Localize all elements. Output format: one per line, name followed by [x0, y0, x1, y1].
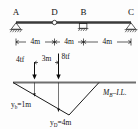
- influence-line-title: MB–I.L.: [102, 88, 127, 98]
- span-label-BC: 4m: [102, 37, 112, 46]
- influence-line-group: yb=1m yD=4m MB–I.L.: [11, 83, 136, 128]
- span-label-AD: 4m: [30, 37, 40, 46]
- ordinate-label-yd: yD=4m: [50, 118, 71, 128]
- ordinate-value-yd: =4m: [58, 118, 72, 127]
- support-C-pin: [125, 23, 138, 32]
- ordinate-value-yb: =1m: [17, 100, 31, 109]
- node-label-D: D: [51, 7, 58, 17]
- loads-group: 4tf 8tf 3m: [16, 52, 70, 80]
- load-arrow-4tf: [32, 62, 36, 80]
- load-label-8tf: 8tf: [62, 52, 71, 61]
- influence-line-shape: [13, 83, 99, 116]
- il-title-tail: –I.L.: [111, 88, 126, 97]
- support-A-pin: [10, 23, 23, 32]
- node-label-C: C: [128, 7, 134, 17]
- support-B-roller: [78, 23, 89, 31]
- figure-canvas: A D B C 4m 4m: [0, 0, 138, 129]
- beam-group: A D B C: [10, 7, 138, 32]
- span-label-DB: 4m: [64, 37, 74, 46]
- dimension-line-group: 4m 4m 4m: [16, 37, 131, 47]
- ordinate-label-yb: yb=1m: [11, 100, 31, 110]
- node-label-A: A: [13, 7, 20, 17]
- hinge-D: [52, 20, 56, 24]
- load-spacing-dimension: 3m: [35, 54, 59, 65]
- ordinate-marker-yd: [57, 83, 60, 113]
- structural-diagram-figure: A D B C 4m 4m: [0, 0, 138, 129]
- load-label-4tf: 4tf: [16, 55, 25, 64]
- node-label-B: B: [80, 7, 86, 17]
- load-spacing-label: 3m: [42, 54, 52, 63]
- load-arrow-8tf: [56, 54, 60, 80]
